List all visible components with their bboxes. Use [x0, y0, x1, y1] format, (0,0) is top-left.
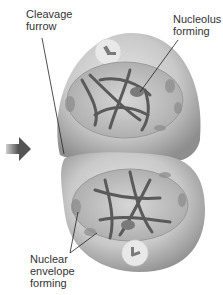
nucleolus-bottom: [121, 220, 135, 230]
label-nucleolus-forming: Nucleolus forming: [173, 13, 221, 37]
centrosome-icon: [122, 240, 148, 266]
top-daughter-cell: [57, 33, 200, 163]
nucleolus-top: [130, 87, 144, 97]
label-line: Nuclear: [30, 253, 75, 265]
label-line: forming: [173, 25, 221, 37]
cell-division-diagram: [0, 0, 223, 295]
centrosome-icon: [95, 39, 121, 65]
label-cleavage-furrow: Cleavage furrow: [26, 8, 72, 32]
label-nuclear-envelope-forming: Nuclear envelope forming: [30, 253, 75, 289]
label-line: furrow: [26, 20, 72, 32]
bottom-daughter-cell: [61, 152, 205, 272]
nucleus-top: [67, 62, 183, 138]
label-line: forming: [30, 277, 75, 289]
label-line: envelope: [30, 265, 75, 277]
label-line: Cleavage: [26, 8, 72, 20]
label-line: Nucleolus: [173, 13, 221, 25]
arrow-icon: [6, 137, 31, 161]
